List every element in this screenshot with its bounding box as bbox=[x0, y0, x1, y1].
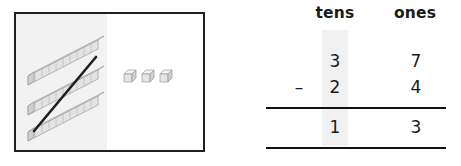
minuend-tens-digit: 3 bbox=[320, 51, 350, 71]
sum-rule-bottom bbox=[266, 147, 446, 149]
unit-cube-2 bbox=[142, 70, 154, 82]
difference-ones-digit: 3 bbox=[401, 117, 431, 137]
unit-cube-3 bbox=[160, 70, 172, 82]
minus-operator-icon: – bbox=[288, 77, 310, 97]
minuend-ones-digit: 7 bbox=[401, 51, 431, 71]
column-header-ones: ones bbox=[386, 4, 444, 22]
subtrahend-ones-digit: 4 bbox=[401, 77, 431, 97]
sum-rule-top bbox=[266, 107, 446, 109]
place-value-subtraction: tens ones 3 7 – 2 4 1 3 bbox=[262, 0, 461, 166]
column-header-tens: tens bbox=[306, 4, 364, 22]
base-ten-blocks-panel bbox=[14, 12, 205, 152]
subtrahend-tens-digit: 2 bbox=[320, 77, 350, 97]
ones-cubes-group bbox=[16, 14, 207, 154]
unit-cube-1 bbox=[124, 70, 136, 82]
worksheet-figure: tens ones 3 7 – 2 4 1 3 bbox=[0, 0, 461, 166]
difference-tens-digit: 1 bbox=[320, 117, 350, 137]
